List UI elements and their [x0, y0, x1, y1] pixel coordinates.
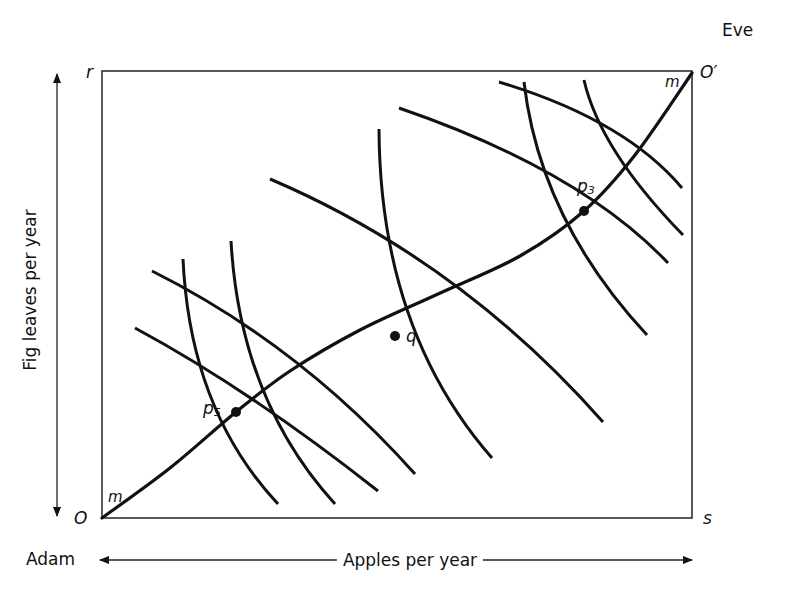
corner-label-o: O: [74, 510, 87, 527]
point-q: [390, 331, 400, 341]
contract-curve: [102, 73, 692, 518]
corner-label-s: s: [703, 510, 712, 527]
point-p5: [231, 407, 241, 417]
adam-indifference-curve-a2: [152, 271, 415, 474]
eve-label: Eve: [722, 22, 753, 39]
point-label-q: q: [406, 328, 417, 345]
point-label-p5: p5: [203, 400, 221, 418]
adam-label: Adam: [26, 551, 75, 568]
eve-indifference-curves: [183, 80, 683, 504]
contract-curve-label-top: m: [665, 75, 680, 90]
contract-curve-label-bottom: m: [108, 490, 123, 505]
adam-indifference-curve-a3: [270, 179, 603, 422]
point-label-p3: p3: [577, 178, 595, 196]
corner-label-r: r: [86, 64, 93, 81]
x-axis-label: Apples per year: [337, 550, 483, 570]
allocation-points: [231, 206, 589, 417]
y-axis-label: Fig leaves per year: [20, 203, 40, 376]
point-p3: [579, 206, 589, 216]
corner-label-o-prime: O′: [700, 64, 717, 81]
